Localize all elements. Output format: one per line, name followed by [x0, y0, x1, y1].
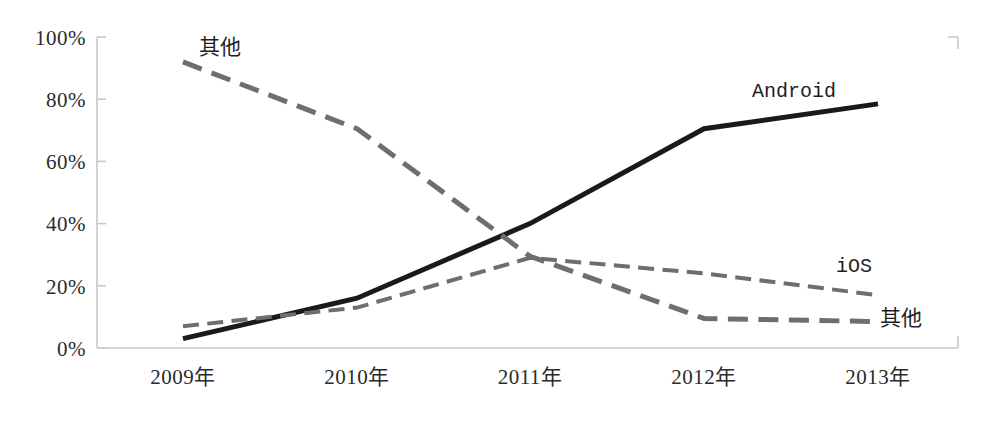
line-chart: 100% 80% 60% 40% 20% 0% 2009年 2010年 2011…	[0, 0, 984, 427]
x-tick-label-2011: 2011年	[460, 360, 600, 390]
series-line-iOS	[183, 258, 878, 326]
y-tick-label-100: 100%	[8, 26, 86, 51]
y-tick-label-0: 0%	[8, 337, 86, 362]
series-layer	[183, 62, 878, 339]
x-tick-label-2010: 2010年	[287, 360, 427, 390]
y-tick-label-80: 80%	[8, 88, 86, 113]
y-tick-label-40: 40%	[8, 212, 86, 237]
series-label-ios: iOS	[836, 255, 872, 278]
y-tick-label-60: 60%	[8, 150, 86, 175]
series-label-others-bottom: 其他	[880, 301, 922, 331]
series-label-others-top: 其他	[199, 30, 241, 60]
series-label-android: Android	[752, 80, 836, 103]
x-tick-label-2012: 2012年	[634, 360, 774, 390]
x-tick-label-2009: 2009年	[113, 360, 253, 390]
series-line-Android	[183, 104, 878, 339]
x-tick-label-2013: 2013年	[808, 360, 948, 390]
y-tick-label-20: 20%	[8, 275, 86, 300]
